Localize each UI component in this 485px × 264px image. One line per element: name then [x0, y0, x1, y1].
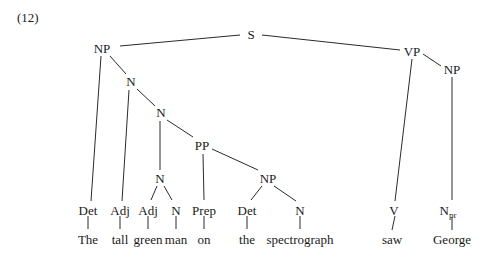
node-n-1: N — [126, 74, 136, 89]
word-the: The — [78, 232, 98, 247]
word-man: man — [165, 232, 188, 247]
word-green: green — [134, 232, 163, 247]
node-vp: VP — [404, 44, 421, 59]
node-adj-2: Adj — [138, 203, 158, 218]
node-prep: Prep — [192, 203, 216, 218]
example-number: (12) — [17, 10, 39, 25]
node-npr-subscript: pr — [449, 210, 457, 220]
word-saw: saw — [382, 232, 403, 247]
node-n-2: N — [156, 105, 166, 120]
node-v: V — [389, 203, 399, 218]
node-n-man: N — [171, 203, 181, 218]
tree-nodes: S NP N N PP N NP VP NP Det Adj Adj N Pre… — [79, 27, 461, 220]
word-george: George — [433, 232, 471, 247]
node-n-3: N — [155, 171, 165, 186]
syntax-tree-diagram: (12) — [0, 0, 485, 264]
word-the-2: the — [239, 232, 255, 247]
node-np-pp: NP — [260, 171, 277, 186]
node-pp: PP — [195, 138, 209, 153]
node-npr: Npr — [440, 203, 457, 220]
node-det-1: Det — [79, 203, 98, 218]
node-np-object: NP — [444, 62, 461, 77]
word-tall: tall — [112, 232, 129, 247]
tree-edges — [88, 35, 452, 230]
node-np-subject: NP — [94, 41, 111, 56]
node-det-2: Det — [238, 203, 257, 218]
node-adj-1: Adj — [110, 203, 130, 218]
word-on: on — [198, 232, 212, 247]
node-n-spectrograph: N — [295, 203, 305, 218]
node-s: S — [247, 27, 254, 42]
word-spectrograph: spectrograph — [266, 232, 334, 247]
terminal-words: The tall green man on the spectrograph s… — [78, 232, 471, 247]
